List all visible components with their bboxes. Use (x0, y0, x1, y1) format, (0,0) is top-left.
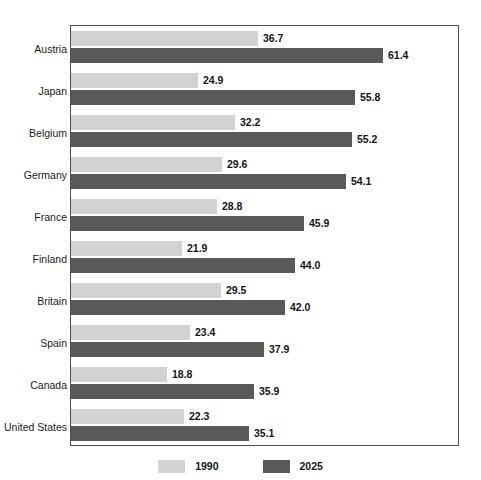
bar-value-label: 61.4 (383, 48, 408, 63)
bar-2025 (71, 300, 285, 315)
chart-plot-area: Austria36.761.4Japan24.955.8Belgium32.25… (0, 25, 481, 446)
bar-track: 21.9 (71, 241, 481, 256)
bar-value-label: 22.3 (184, 409, 209, 424)
bar-group: United States22.335.1 (0, 406, 481, 448)
category-label: Austria (0, 39, 67, 59)
bar-track: 61.4 (71, 48, 481, 63)
category-label: Spain (0, 333, 67, 353)
bar-value-label: 45.9 (304, 216, 329, 231)
bar-value-label: 35.1 (249, 426, 274, 441)
legend-item: 1990 (158, 460, 218, 473)
bar-value-label: 24.9 (198, 73, 223, 88)
bar-1990 (71, 241, 182, 256)
bar-group: Finland21.944.0 (0, 238, 481, 280)
bar-track: 29.5 (71, 283, 481, 298)
bar-1990 (71, 31, 258, 46)
bar-2025 (71, 48, 383, 63)
bar-2025 (71, 342, 264, 357)
legend-swatch-icon (263, 460, 290, 473)
bar-2025 (71, 90, 355, 105)
category-label: France (0, 207, 67, 227)
bar-track: 18.8 (71, 367, 481, 382)
bar-track: 29.6 (71, 157, 481, 172)
bar-1990 (71, 199, 217, 214)
bar-group: Spain23.437.9 (0, 322, 481, 364)
bar-track: 36.7 (71, 31, 481, 46)
bar-1990 (71, 115, 235, 130)
bar-value-label: 18.8 (167, 367, 192, 382)
bar-value-label: 54.1 (346, 174, 371, 189)
bar-value-label: 35.9 (254, 384, 279, 399)
bar-value-label: 36.7 (258, 31, 283, 46)
bar-track: 42.0 (71, 300, 481, 315)
legend-label: 1990 (195, 460, 218, 472)
bar-value-label: 37.9 (264, 342, 289, 357)
bar-value-label: 44.0 (295, 258, 320, 273)
bar-track: 37.9 (71, 342, 481, 357)
bar-1990 (71, 283, 221, 298)
bar-2025 (71, 174, 346, 189)
bar-value-label: 32.2 (235, 115, 260, 130)
bar-1990 (71, 325, 190, 340)
category-label: Canada (0, 375, 67, 395)
bar-track: 32.2 (71, 115, 481, 130)
bar-value-label: 29.5 (221, 283, 246, 298)
bar-group: Austria36.761.4 (0, 28, 481, 70)
bar-track: 24.9 (71, 73, 481, 88)
bar-value-label: 42.0 (285, 300, 310, 315)
bar-chart: Austria36.761.4Japan24.955.8Belgium32.25… (0, 0, 481, 480)
bar-track: 45.9 (71, 216, 481, 231)
bar-value-label: 23.4 (190, 325, 215, 340)
bar-2025 (71, 132, 352, 147)
bar-group: Germany29.654.1 (0, 154, 481, 196)
bar-group: Japan24.955.8 (0, 70, 481, 112)
category-label: United States (0, 417, 67, 437)
bar-1990 (71, 367, 167, 382)
category-label: Germany (0, 165, 67, 185)
bar-track: 35.9 (71, 384, 481, 399)
bar-1990 (71, 157, 222, 172)
bar-2025 (71, 384, 254, 399)
category-label: Belgium (0, 123, 67, 143)
category-label: Japan (0, 81, 67, 101)
bar-value-label: 21.9 (182, 241, 207, 256)
bar-track: 55.2 (71, 132, 481, 147)
bar-track: 28.8 (71, 199, 481, 214)
bar-track: 54.1 (71, 174, 481, 189)
bar-track: 35.1 (71, 426, 481, 441)
bar-track: 22.3 (71, 409, 481, 424)
bar-2025 (71, 258, 295, 273)
bar-value-label: 28.8 (217, 199, 242, 214)
bar-2025 (71, 426, 249, 441)
category-label: Finland (0, 249, 67, 269)
category-label: Britain (0, 291, 67, 311)
bar-2025 (71, 216, 304, 231)
legend-item: 2025 (263, 460, 323, 473)
bar-value-label: 29.6 (222, 157, 247, 172)
bar-group: Belgium32.255.2 (0, 112, 481, 154)
bar-group: France28.845.9 (0, 196, 481, 238)
bar-group: Britain29.542.0 (0, 280, 481, 322)
bar-1990 (71, 409, 184, 424)
chart-legend: 19902025 (0, 456, 481, 476)
bar-1990 (71, 73, 198, 88)
bar-group: Canada18.835.9 (0, 364, 481, 406)
legend-swatch-icon (158, 460, 185, 473)
bar-track: 44.0 (71, 258, 481, 273)
bar-track: 55.8 (71, 90, 481, 105)
bar-track: 23.4 (71, 325, 481, 340)
bar-value-label: 55.2 (352, 132, 377, 147)
bar-value-label: 55.8 (355, 90, 380, 105)
legend-label: 2025 (300, 460, 323, 472)
